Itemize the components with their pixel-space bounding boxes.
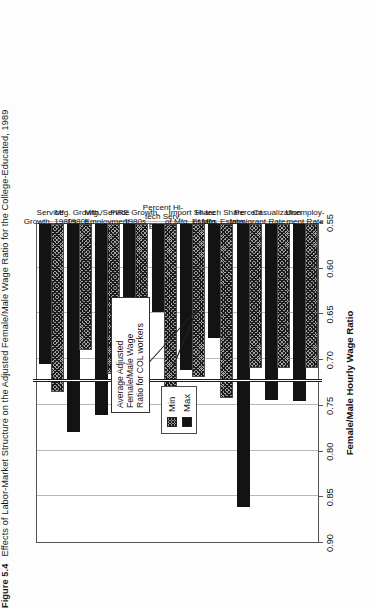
axis-tick-label: 0.70 xyxy=(325,351,335,369)
axis-tick-label: 0.85 xyxy=(325,488,335,506)
annotation-line-3: Ratio for COL workers xyxy=(135,302,145,408)
axis-tick-label: 0.65 xyxy=(325,305,335,323)
bar-min xyxy=(305,224,318,368)
axis-tick xyxy=(319,496,323,497)
axis-tick-label: 0.60 xyxy=(325,260,335,278)
axis-tick xyxy=(319,451,323,452)
figure-number: Figure 5.4 xyxy=(0,564,10,608)
plot-area xyxy=(36,223,319,543)
figure-caption-text: Effects of Labor-Market Structure on the… xyxy=(0,110,10,557)
bar-min xyxy=(79,224,92,350)
axis-tick xyxy=(319,313,323,314)
bar-min xyxy=(51,224,64,392)
legend-item-max: Max xyxy=(181,394,192,427)
axis-tick-label: 0.75 xyxy=(325,397,335,415)
x-axis-title: Female/Male Hourly Wage Ratio xyxy=(344,223,355,543)
chart-legend: Min Max xyxy=(161,386,197,434)
bar-min xyxy=(277,224,290,368)
annotation-line-2: Female/Male Wage xyxy=(125,302,135,408)
bar-chart: Min Max Female/Male Hourly Wage Ratio Av… xyxy=(14,0,376,609)
chart-rotation-host: Min Max Female/Male Hourly Wage Ratio Av… xyxy=(14,0,376,609)
bar-min xyxy=(249,224,262,368)
bar-min xyxy=(220,224,233,398)
bar-min xyxy=(192,224,205,377)
axis-tick xyxy=(319,542,323,543)
solid-black-swatch-icon xyxy=(182,417,192,427)
legend-label-max: Max xyxy=(181,394,192,412)
legend-item-min: Min xyxy=(166,394,177,427)
axis-tick-label: 0.80 xyxy=(325,443,335,461)
gridline xyxy=(37,450,318,451)
bar-min xyxy=(164,224,177,391)
annotation-line-1: Average Adjusted xyxy=(115,302,125,408)
annotation-callout: Average Adjusted Female/Male Wage Ratio … xyxy=(111,297,150,413)
reference-line xyxy=(33,379,322,382)
axis-tick xyxy=(319,268,323,269)
gridline xyxy=(37,495,318,496)
axis-tick xyxy=(319,405,323,406)
hatched-swatch-icon xyxy=(167,417,177,427)
legend-label-min: Min xyxy=(166,397,177,412)
axis-tick-label: 0.90 xyxy=(325,534,335,552)
axis-tick xyxy=(319,359,323,360)
